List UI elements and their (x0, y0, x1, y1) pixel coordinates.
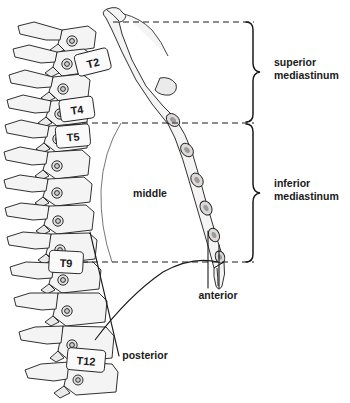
bracket-label-inferior-line2: mediastinum (274, 190, 339, 202)
vertebra-label-t12: T12 (76, 354, 96, 368)
vertebra-label-t9: T9 (59, 257, 72, 270)
bracket-label-superior-line1: superior (274, 56, 316, 68)
vertebra-label-t5: T5 (66, 130, 80, 143)
region-label-middle: middle (133, 187, 167, 199)
region-label-posterior: posterior (122, 349, 168, 361)
vertebra-label-t4: T4 (70, 103, 85, 117)
mediastinum-diagram: T2 T4 T5 T9 T12 middle anterior posterio… (0, 0, 350, 403)
bracket-label-inferior-line1: inferior (274, 177, 310, 189)
region-label-anterior: anterior (198, 289, 237, 301)
bracket-label-superior-line2: mediastinum (274, 69, 339, 81)
